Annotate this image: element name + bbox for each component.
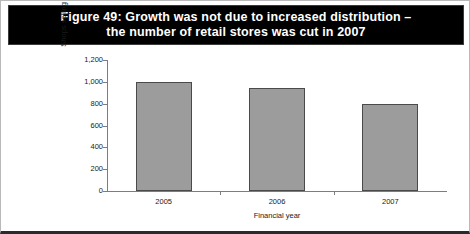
figure-container: Figure 49: Growth was not due to increas… — [0, 0, 470, 234]
bar-chart: Shops selling Radley brand 1,2001,000800… — [1, 45, 470, 231]
x-axis-category-label: 2006 — [237, 197, 317, 206]
x-axis-title: Financial year — [107, 211, 447, 220]
bar — [362, 104, 418, 191]
figure-title-line-2: the number of retail stores was cut in 2… — [106, 25, 365, 40]
bar — [136, 82, 192, 191]
x-axis-category-label: 2005 — [124, 197, 204, 206]
figure-title-banner: Figure 49: Growth was not due to increas… — [8, 5, 464, 45]
x-axis-category-label: 2007 — [350, 197, 430, 206]
bar — [249, 88, 305, 191]
figure-title-line-1: Figure 49: Growth was not due to increas… — [61, 10, 412, 25]
